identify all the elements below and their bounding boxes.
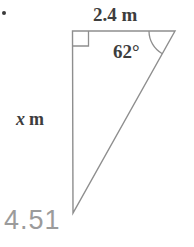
left-side-label: xm (16, 110, 44, 128)
right-angle-marker (73, 31, 89, 46)
side-variable: x (16, 109, 25, 129)
side-unit: m (29, 109, 44, 129)
answer-text: 4.51 (4, 207, 61, 234)
angle-arc (149, 31, 162, 54)
triangle-figure: 2.4 m 62° xm 4.51 (0, 0, 194, 247)
top-side-label: 2.4 m (93, 5, 137, 24)
angle-label: 62° (113, 42, 140, 61)
